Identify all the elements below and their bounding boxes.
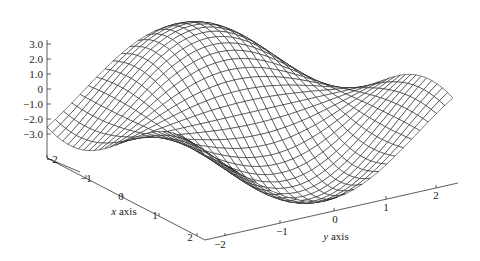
x-axis-title: x axis: [110, 205, 136, 217]
z-tick-label: −3.0: [23, 128, 43, 140]
y-axis-title: y axis: [322, 230, 348, 242]
z-tick-label: −1.0: [23, 98, 43, 110]
y-tick-label: 0: [332, 213, 338, 225]
y-tick-label: −2: [214, 238, 226, 250]
z-tick-label: 2.0: [29, 53, 43, 65]
x-tick-label: 1: [152, 209, 158, 221]
x-tick-label: −2: [46, 153, 58, 165]
z-axis-ticks: [47, 44, 51, 134]
y-axis-title-rest: axis: [328, 230, 348, 242]
x-tick-label: 2: [187, 231, 193, 243]
surface-plot: 3.0 2.0 1.0 0 −1.0 −2.0 −3.0 −2 −1 0 1 2…: [0, 0, 480, 261]
y-tick-label: −1: [276, 225, 288, 237]
x-axis-title-rest: axis: [116, 205, 136, 217]
x-axis-line: [47, 158, 205, 240]
z-tick-label: 1.0: [29, 68, 43, 80]
x-tick-label: −1: [80, 172, 92, 184]
x-tick-label: 0: [118, 190, 124, 202]
z-tick-label: 3.0: [29, 38, 43, 50]
z-tick-label: 0: [38, 83, 44, 95]
y-tick-label: 2: [433, 189, 439, 201]
y-tick-label: 1: [383, 201, 389, 213]
z-tick-label: −2.0: [23, 113, 43, 125]
wireframe-surface: [47, 22, 453, 204]
